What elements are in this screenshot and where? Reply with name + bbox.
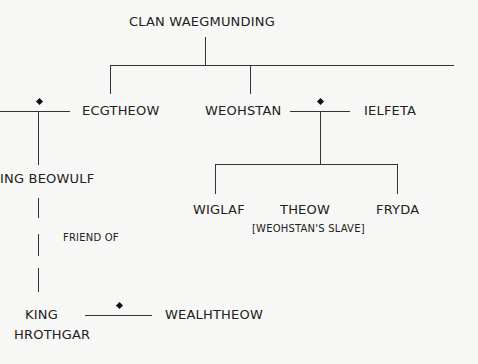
friend-line: [38, 198, 39, 218]
connector: [110, 65, 111, 94]
marriage-icon: [36, 98, 43, 105]
friend-line: [38, 234, 39, 256]
connector: [205, 37, 206, 65]
marriage-icon: [116, 302, 123, 309]
person-fryda: FRYDA: [376, 202, 419, 217]
marriage-line: [0, 111, 70, 112]
marriage-icon: [317, 98, 324, 105]
connector: [320, 111, 321, 164]
connector: [110, 65, 454, 66]
relation-friend-of: FRIEND OF: [63, 232, 119, 243]
person-hrothgar-2: HROTHGAR: [14, 327, 90, 342]
person-hrothgar: KING: [25, 307, 58, 322]
person-beowulf: ING BEOWULF: [0, 171, 94, 186]
theow-note: [WEOHSTAN'S SLAVE]: [252, 223, 365, 234]
connector: [215, 164, 397, 165]
connector: [250, 65, 251, 94]
friend-line: [38, 268, 39, 292]
person-theow: THEOW: [280, 202, 330, 217]
connector: [397, 164, 398, 194]
connector: [38, 111, 39, 165]
marriage-line: [85, 315, 152, 316]
person-wiglaf: WIGLAF: [193, 202, 245, 217]
person-ecgtheow: ECGTHEOW: [82, 103, 160, 118]
connector: [215, 164, 216, 194]
person-weohstan: WEOHSTAN: [205, 103, 281, 118]
clan-title: CLAN WAEGMUNDING: [129, 14, 275, 29]
person-ielfeta: IELFETA: [364, 103, 416, 118]
person-wealhtheow: WEALHTHEOW: [165, 307, 263, 322]
